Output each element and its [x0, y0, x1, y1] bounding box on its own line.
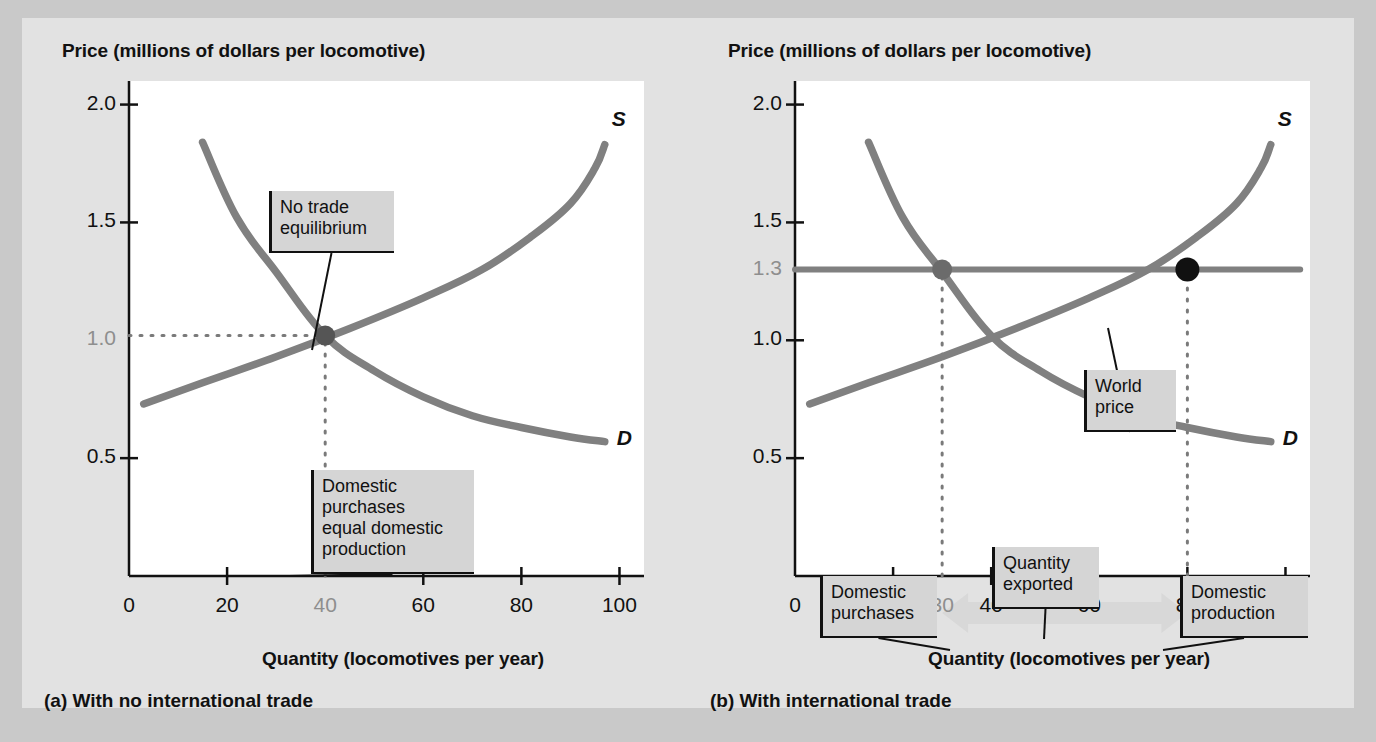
figure-root: Price (millions of dollars per locomotiv… [0, 0, 1376, 742]
y-tick-label: 1.5 [54, 208, 116, 232]
world-price-callout: World price [1084, 370, 1176, 432]
y-tick-label: 1.0 [54, 326, 116, 350]
panel-b-caption: (b) With international trade [710, 690, 952, 712]
panel-b: Price (millions of dollars per locomotiv… [688, 18, 1354, 708]
curve-label-D: D [1283, 426, 1298, 450]
curve-demand [203, 142, 605, 441]
quantity-exported-callout: Quantity exported [992, 547, 1099, 609]
panel-a-x-axis-title: Quantity (locomotives per year) [262, 648, 544, 670]
domestic-production-callout: Domestic production [1180, 576, 1308, 638]
y-tick-label: 0.5 [54, 444, 116, 468]
curve-label-D: D [617, 426, 632, 450]
y-tick-label: 2.0 [720, 91, 782, 115]
curve-supply [144, 145, 605, 404]
panel-a-y-axis-title: Price (millions of dollars per locomotiv… [62, 40, 425, 62]
curve-label-S: S [612, 107, 626, 131]
x-tick-label: 100 [589, 593, 649, 617]
panel-b-plot-area: 0.51.01.31.52.002030406080100 SD World p… [772, 81, 1310, 591]
figure-inner-panel: Price (millions of dollars per locomotiv… [22, 18, 1354, 708]
x-tick-label: 0 [765, 593, 825, 617]
x-tick-label: 20 [197, 593, 257, 617]
domestic-purchases-callout: Domestic purchases [820, 576, 937, 638]
curve-label-S: S [1278, 107, 1292, 131]
panel-b-x-axis-title: Quantity (locomotives per year) [928, 648, 1210, 670]
panel-b-chart-svg [772, 81, 1310, 591]
panel-b-y-axis-title: Price (millions of dollars per locomotiv… [728, 40, 1091, 62]
y-tick-label: 1.5 [720, 208, 782, 232]
panel-a: Price (millions of dollars per locomotiv… [22, 18, 688, 708]
marker-domestic-purchases-point [932, 260, 952, 280]
y-tick-label: 2.0 [54, 91, 116, 115]
y-tick-label: 1.3 [720, 256, 782, 280]
x-tick-label: 80 [491, 593, 551, 617]
x-tick-label: 60 [393, 593, 453, 617]
marker-domestic-production-point [1175, 258, 1199, 282]
x-tick-label: 0 [99, 593, 159, 617]
marker-no-trade-equilibrium [315, 326, 335, 346]
domestic-equals-production-callout: Domestic purchases equal domestic produc… [311, 470, 474, 574]
panel-a-plot-area: 0.51.01.52.0020406080100 SD No trade equ… [106, 81, 644, 591]
y-tick-label: 0.5 [720, 444, 782, 468]
curve-supply [810, 145, 1271, 404]
no-trade-equilibrium-callout: No trade equilibrium [269, 191, 394, 253]
y-tick-label: 1.0 [720, 326, 782, 350]
curve-demand [869, 142, 1271, 441]
panel-a-caption: (a) With no international trade [44, 690, 313, 712]
x-tick-label: 40 [295, 593, 355, 617]
